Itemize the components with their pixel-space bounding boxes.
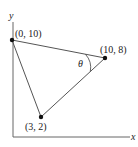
angle-theta-label: θ	[78, 58, 83, 69]
side-a-c	[12, 40, 41, 117]
x-axis-label: x	[130, 131, 136, 142]
angle-arc	[85, 54, 90, 71]
side-b-c	[41, 58, 105, 117]
point-label-10-8: (10, 8)	[100, 44, 127, 56]
triangle-diagram: y x θ (0, 10) (10, 8) (3, 2)	[0, 0, 138, 147]
point-10-8	[103, 56, 107, 60]
point-label-0-10: (0, 10)	[15, 28, 42, 40]
point-0-10	[10, 38, 14, 42]
point-3-2	[39, 115, 43, 119]
side-a-b	[12, 40, 105, 58]
y-axis-label: y	[8, 10, 14, 21]
point-label-3-2: (3, 2)	[25, 121, 47, 133]
